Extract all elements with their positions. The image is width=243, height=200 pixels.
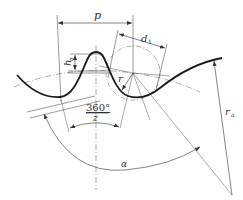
radial-lines <box>99 66 232 195</box>
r-label: r <box>118 73 124 84</box>
pitch-angle-denominator: z <box>92 113 98 123</box>
pitch-circle-arc <box>14 70 200 92</box>
pitch-angle-arc <box>70 123 119 128</box>
ra-subscript: a <box>231 111 235 118</box>
r-dimension-line <box>122 73 133 90</box>
alpha-label: α <box>121 159 127 169</box>
d1-subscript: 1 <box>148 38 152 45</box>
d1-dimension <box>108 30 167 90</box>
d1-label: d <box>141 33 147 44</box>
pitch-angle-numerator: 360° <box>86 102 110 113</box>
pitch-angle-lines <box>61 100 69 132</box>
pitch-label: p <box>94 9 101 22</box>
sprocket-diagram: p d 1 h a r 360° z α r a <box>0 0 243 200</box>
ha-subscript: a <box>67 57 74 61</box>
ra-dimension-line <box>214 61 232 195</box>
